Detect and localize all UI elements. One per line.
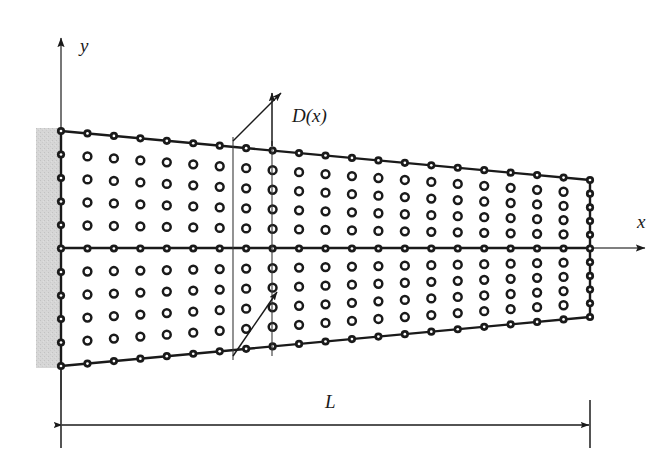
length-dimension-label: L — [324, 391, 336, 412]
depth-label: D(x) — [291, 105, 327, 127]
beam-body — [57, 127, 594, 370]
y-axis-label: y — [78, 35, 89, 56]
tapered-beam-diagram: y x D(x) L — [0, 0, 670, 465]
x-axis-label: x — [636, 211, 646, 232]
y-axis: y — [61, 35, 89, 400]
